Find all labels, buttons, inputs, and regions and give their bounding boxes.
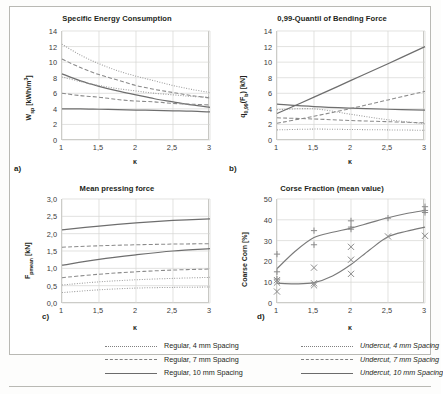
x-axis-tick: 2: [348, 306, 352, 315]
y-axis-tick: 1,0: [27, 264, 57, 273]
legend-divider: [9, 386, 431, 387]
y-axis-tick: 2,0: [27, 229, 57, 238]
legend-item: Regular, 4 mm Spacing: [105, 340, 243, 351]
y-axis-tick: 12: [27, 42, 57, 51]
panel-c-plot: [61, 199, 209, 303]
x-axis-tick: 1: [274, 306, 278, 315]
legend-line-swatch: [105, 342, 157, 350]
plus-marker: [348, 218, 354, 224]
legend-line-swatch: [301, 369, 353, 377]
legend-item-label: Undercut, 7 mm Spacing: [360, 355, 439, 364]
panel-b-xlabel: κ: [276, 158, 424, 165]
x-axis-tick: 1,5: [93, 306, 103, 315]
legend-line-swatch: [301, 355, 353, 363]
panel-a-title: Specific Energy Consumption: [14, 14, 220, 23]
legend-item-label: Regular, 7 mm Spacing: [164, 355, 239, 364]
plus-marker: [274, 269, 280, 275]
legend-column-undercut: Undercut, 4 mm SpacingUndercut, 7 mm Spa…: [301, 340, 443, 378]
panel-c-svg: [62, 199, 210, 303]
legend-item: Regular, 10 mm Spacing: [105, 367, 243, 378]
y-axis-tick: 6: [242, 89, 272, 98]
panel-d-tag: d): [257, 312, 265, 321]
x-axis-tick: 3: [422, 143, 426, 152]
legend-item-label: Undercut, 4 mm Spacing: [360, 341, 439, 350]
y-axis-tick: 14: [242, 27, 272, 36]
plus-marker: [311, 242, 317, 248]
panel-d: Corse Fraction (mean value) Coarse Corn …: [229, 184, 435, 340]
legend-item: Regular, 7 mm Spacing: [105, 354, 243, 365]
y-axis-tick: 0,5: [27, 281, 57, 290]
y-axis-tick: 12: [242, 42, 272, 51]
y-axis-tick: 20: [242, 257, 272, 266]
legend-line-swatch: [105, 355, 157, 363]
x-axis-tick: 2: [133, 306, 137, 315]
y-axis-tick: 8: [27, 73, 57, 82]
y-axis-tick: 0: [27, 136, 57, 145]
panel-a-xlabel: κ: [61, 158, 209, 165]
legend-line-swatch: [301, 342, 353, 350]
y-axis-tick: 0: [242, 136, 272, 145]
y-axis-tick: 10: [242, 58, 272, 67]
y-axis-tick: 10: [27, 58, 57, 67]
x-axis-tick: 1,5: [308, 143, 318, 152]
panel-b-title: 0,99-Quantil of Bending Force: [229, 14, 435, 23]
x-axis-tick: 1: [59, 143, 63, 152]
x-axis-tick: 3: [207, 306, 211, 315]
legend-line-swatch: [105, 369, 157, 377]
legend-item-label: Regular, 4 mm Spacing: [164, 341, 239, 350]
legend-item: Undercut, 10 mm Spacing: [301, 367, 443, 378]
panel-a-tag: a): [14, 164, 21, 173]
legend-column-regular: Regular, 4 mm SpacingRegular, 7 mm Spaci…: [105, 340, 243, 378]
y-axis-tick: 6: [27, 89, 57, 98]
y-axis-tick: 14: [27, 27, 57, 36]
x-axis-tick: 2: [133, 143, 137, 152]
panel-d-svg: [277, 199, 425, 303]
x-axis-tick: 2,5: [167, 306, 177, 315]
plus-marker: [311, 228, 317, 234]
y-axis-tick: 1,5: [27, 247, 57, 256]
y-axis-tick: 4: [242, 104, 272, 113]
y-axis-tick: 2: [27, 120, 57, 129]
y-axis-tick: 30: [242, 236, 272, 245]
panel-c-xlabel: κ: [61, 324, 209, 331]
y-axis-tick: 4: [27, 104, 57, 113]
panel-c-tag: c): [42, 312, 49, 321]
y-axis-tick: 50: [242, 195, 272, 204]
x-axis-tick: 2: [348, 143, 352, 152]
panel-d-plot: [276, 199, 424, 303]
x-axis-tick: 3: [422, 306, 426, 315]
panel-a-plot: [61, 31, 209, 140]
plus-marker: [274, 276, 280, 282]
y-axis-tick: 40: [242, 215, 272, 224]
x-axis-tick: 3: [207, 143, 211, 152]
y-axis-tick: 2: [242, 120, 272, 129]
x-axis-tick: 2,5: [167, 143, 177, 152]
panel-a-svg: [62, 31, 210, 140]
x-axis-tick: 1,5: [93, 143, 103, 152]
panel-b: 0,99-Quantil of Bending Force q0,99(Fb) …: [229, 14, 435, 180]
y-axis-tick: 10: [242, 278, 272, 287]
y-axis-tick: 0: [242, 299, 272, 308]
x-axis-tick: 1,5: [308, 306, 318, 315]
legend-item-label: Undercut, 10 mm Spacing: [360, 368, 443, 377]
panel-d-title: Corse Fraction (mean value): [229, 184, 435, 193]
plus-marker: [385, 215, 391, 221]
legend-item: Undercut, 4 mm Spacing: [301, 340, 443, 351]
plus-marker: [274, 251, 280, 257]
panel-d-xlabel: κ: [276, 324, 424, 331]
y-axis-tick: 8: [242, 73, 272, 82]
x-axis-tick: 2,5: [382, 143, 392, 152]
panel-b-tag: b): [229, 164, 237, 173]
panel-b-svg: [277, 31, 425, 140]
y-axis-tick: 2,5: [27, 212, 57, 221]
figure-legend: Regular, 4 mm SpacingRegular, 7 mm Spaci…: [9, 340, 431, 388]
panel-a: Specific Energy Consumption Wsp [kWh/m3]…: [14, 14, 220, 180]
panel-c-title: Mean pressing force: [14, 184, 220, 193]
y-axis-tick: 0,0: [27, 299, 57, 308]
x-axis-tick: 1: [274, 143, 278, 152]
x-axis-tick: 1: [59, 306, 63, 315]
legend-item: Undercut, 7 mm Spacing: [301, 354, 443, 365]
x-axis-tick: 2,5: [382, 306, 392, 315]
y-axis-tick: 3,0: [27, 195, 57, 204]
